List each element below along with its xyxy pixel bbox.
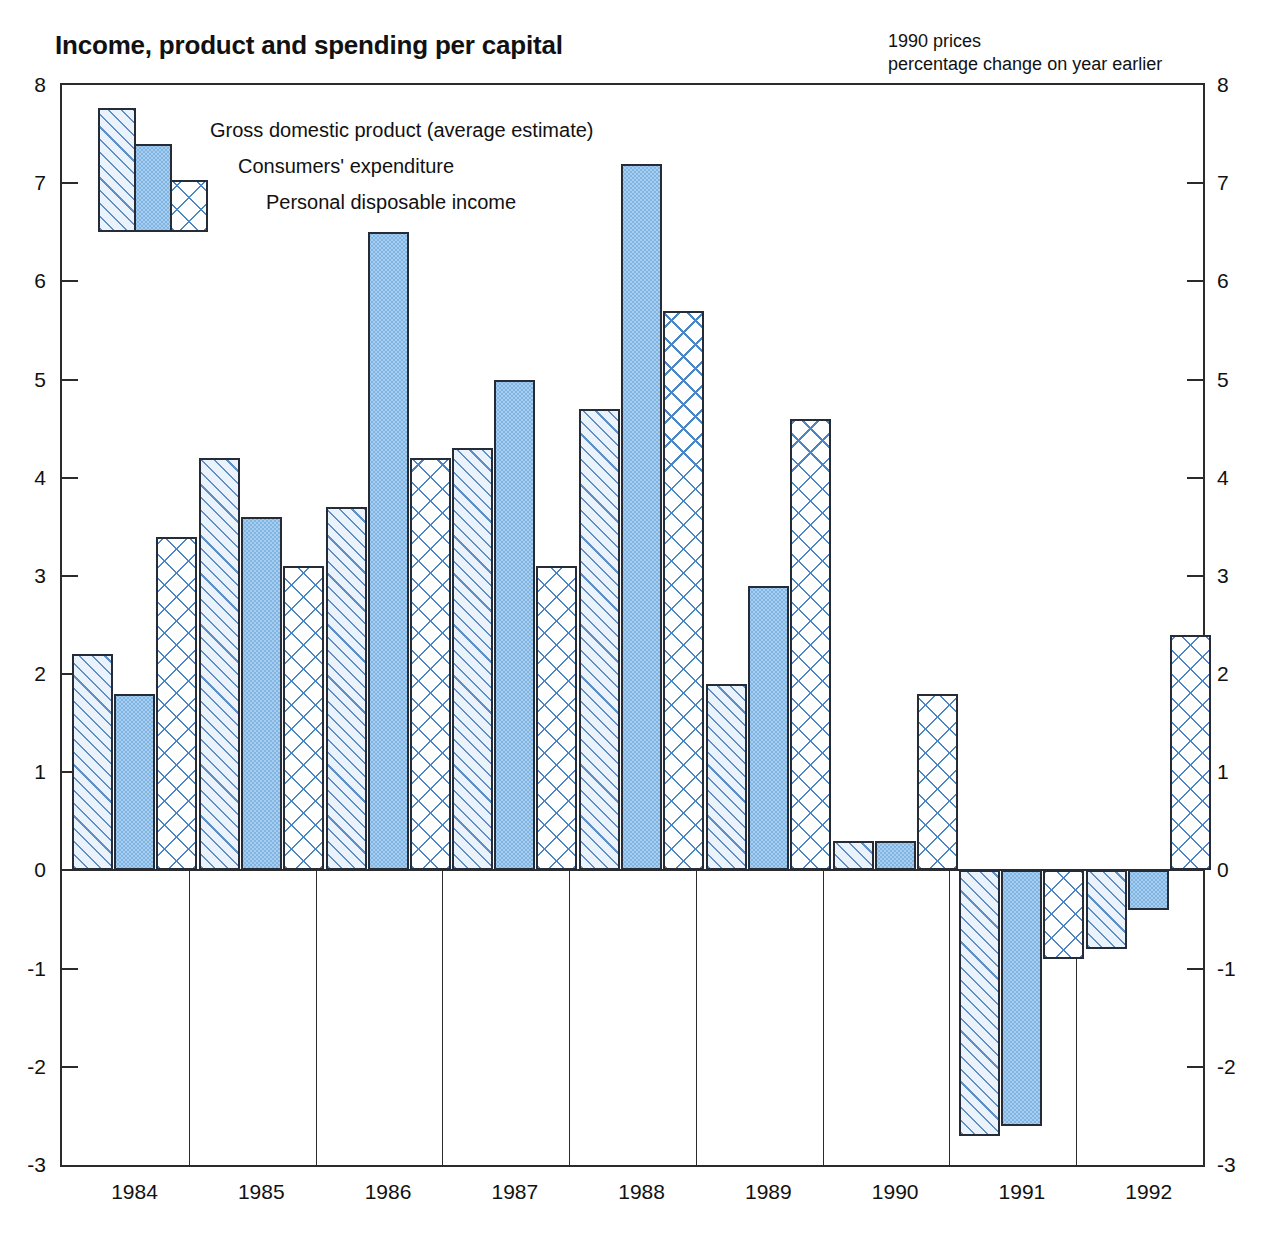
bar-personal-disposable-income-1985 (283, 566, 324, 870)
y-tick-right (1187, 575, 1203, 577)
legend-label-gross-domestic-product: Gross domestic product (average estimate… (210, 120, 594, 140)
bar-personal-disposable-income-1984 (156, 537, 197, 871)
y-axis-label: 4 (1217, 467, 1263, 488)
bar-personal-disposable-income-1989 (790, 419, 831, 871)
group-separator (823, 870, 824, 1165)
y-axis-label: -3 (0, 1154, 46, 1175)
y-tick-left (62, 477, 78, 479)
y-tick-right (1187, 379, 1203, 381)
bar-personal-disposable-income-1990 (917, 694, 958, 871)
y-axis-label: 1 (1217, 761, 1263, 782)
y-axis-label: -3 (1217, 1154, 1263, 1175)
y-tick-left (62, 968, 78, 970)
legend-label-personal-disposable-income: Personal disposable income (266, 192, 516, 212)
chart-plot-inner: Gross domestic product (average estimate… (62, 85, 1203, 1165)
bar-consumers-expenditure-1989 (748, 586, 789, 871)
y-axis-label: 4 (0, 467, 46, 488)
y-axis-label: 7 (1217, 172, 1263, 193)
y-axis-label: 3 (0, 565, 46, 586)
y-axis-label: -2 (1217, 1056, 1263, 1077)
y-axis-label: 5 (1217, 369, 1263, 390)
chart-legend: Gross domestic product (average estimate… (80, 90, 580, 240)
bar-consumers-expenditure-1991 (1001, 870, 1042, 1125)
y-tick-right (1187, 477, 1203, 479)
bar-gdp-1991 (959, 870, 1000, 1135)
bar-consumers-expenditure-1986 (368, 232, 409, 870)
legend-label-consumers-expenditure: Consumers' expenditure (238, 156, 454, 176)
y-tick-left (62, 1066, 78, 1068)
group-separator (949, 870, 950, 1165)
bar-consumers-expenditure-1987 (494, 380, 535, 871)
bar-gdp-1984 (72, 654, 113, 870)
y-tick-left (62, 280, 78, 282)
y-tick-right (1187, 280, 1203, 282)
x-axis-label-1985: 1985 (201, 1180, 321, 1204)
legend-swatch-personal-disposable-income (170, 180, 208, 232)
bar-consumers-expenditure-1988 (621, 164, 662, 871)
chart-subtitle: 1990 prices percentage change on year ea… (888, 30, 1162, 76)
y-axis-label: -1 (0, 958, 46, 979)
bar-gdp-1987 (452, 448, 493, 870)
page-title: Income, product and spending per capital (55, 30, 563, 61)
y-axis-label: 7 (0, 172, 46, 193)
y-tick-right (1187, 968, 1203, 970)
bar-gdp-1989 (706, 684, 747, 871)
group-separator (442, 870, 443, 1165)
y-axis-label: 8 (1217, 74, 1263, 95)
bar-gdp-1992 (1086, 870, 1127, 949)
bar-personal-disposable-income-1991 (1043, 870, 1084, 958)
group-separator (569, 870, 570, 1165)
y-axis-label: -1 (1217, 958, 1263, 979)
x-axis-label-1988: 1988 (582, 1180, 702, 1204)
x-axis-label-1986: 1986 (328, 1180, 448, 1204)
y-axis-label: 6 (0, 270, 46, 291)
chart-plot-area: Gross domestic product (average estimate… (60, 83, 1205, 1167)
y-axis-label: 2 (1217, 663, 1263, 684)
x-axis-label-1992: 1992 (1089, 1180, 1209, 1204)
bar-personal-disposable-income-1986 (410, 458, 451, 870)
bar-consumers-expenditure-1992 (1128, 870, 1169, 909)
y-axis-label: 1 (0, 761, 46, 782)
bar-gdp-1988 (579, 409, 620, 870)
subtitle-line-1: 1990 prices (888, 30, 1162, 53)
y-tick-left (62, 182, 78, 184)
y-tick-right (1187, 182, 1203, 184)
y-axis-label: 2 (0, 663, 46, 684)
bar-gdp-1986 (326, 507, 367, 870)
x-axis-label-1984: 1984 (75, 1180, 195, 1204)
group-separator (316, 870, 317, 1165)
bar-gdp-1985 (199, 458, 240, 870)
x-axis-label-1991: 1991 (962, 1180, 1082, 1204)
group-separator (696, 870, 697, 1165)
y-axis-label: 0 (0, 859, 46, 880)
bar-consumers-expenditure-1984 (114, 694, 155, 871)
y-tick-left (62, 379, 78, 381)
bar-personal-disposable-income-1992 (1170, 635, 1211, 871)
bar-consumers-expenditure-1985 (241, 517, 282, 870)
x-axis-label-1990: 1990 (835, 1180, 955, 1204)
y-tick-left (62, 575, 78, 577)
y-axis-label: 0 (1217, 859, 1263, 880)
x-axis-label-1989: 1989 (708, 1180, 828, 1204)
y-axis-label: 3 (1217, 565, 1263, 586)
bar-personal-disposable-income-1987 (536, 566, 577, 870)
y-axis-label: -2 (0, 1056, 46, 1077)
group-separator (189, 870, 190, 1165)
subtitle-line-2: percentage change on year earlier (888, 53, 1162, 76)
y-axis-label: 8 (0, 74, 46, 95)
y-axis-label: 5 (0, 369, 46, 390)
bar-consumers-expenditure-1990 (875, 841, 916, 870)
x-axis-label-1987: 1987 (455, 1180, 575, 1204)
legend-swatch-consumers-expenditure (134, 144, 172, 232)
y-tick-right (1187, 1066, 1203, 1068)
legend-swatch-gross-domestic-product (98, 108, 136, 233)
bar-gdp-1990 (833, 841, 874, 870)
y-axis-label: 6 (1217, 270, 1263, 291)
bar-personal-disposable-income-1988 (663, 311, 704, 871)
